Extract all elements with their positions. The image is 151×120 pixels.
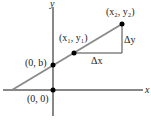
x-axis-label: x [144, 84, 150, 95]
origin-label: (0, 0) [27, 93, 49, 105]
point-intercept [51, 63, 56, 68]
point-p2 [120, 22, 125, 27]
intercept-label: (0, b) [25, 57, 47, 69]
point-p1 [72, 51, 77, 56]
delta-x-label: Δx [91, 55, 102, 66]
point-origin [51, 88, 56, 93]
delta-y-label: Δy [124, 34, 135, 45]
line-diagram: y x (0, 0) (0, b) (x₁, y₁) (x₂, y₂) Δx Δ… [0, 0, 151, 120]
p1-label: (x₁, y₁) [59, 32, 88, 44]
y-axis-label: y [49, 0, 55, 9]
p2-label: (x₂, y₂) [106, 6, 135, 18]
